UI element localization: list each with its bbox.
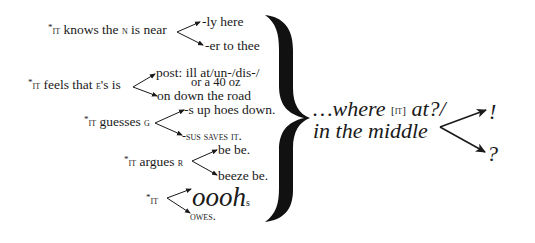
branch-5-lower: owes.: [190, 209, 216, 223]
right-brace-icon: [265, 15, 310, 222]
stem-tail: 's is: [101, 77, 121, 92]
conclusion-question: ?: [487, 143, 498, 165]
stem-text: knows the: [60, 22, 122, 37]
bracketed-it: [it]: [391, 104, 406, 116]
fork-arrows-conclusion: [440, 110, 486, 152]
conclusion-exclamation: !: [489, 101, 496, 123]
branch-1-lower: -er to thee: [205, 39, 260, 53]
stem-1: *it knows the n is near: [48, 23, 167, 37]
oooh-text: oooh: [192, 182, 246, 212]
stem-5: *it: [146, 193, 158, 207]
branch-1-upper: -ly here: [202, 15, 244, 29]
branch-5-upper: ooohs: [192, 184, 250, 211]
fork-arrows-2: [133, 74, 157, 96]
stem-4: *it argues r: [124, 155, 183, 169]
stem-2: *it feels that e's is: [28, 78, 121, 92]
stem-text: feels that: [40, 77, 96, 92]
it-word: it: [231, 129, 239, 143]
it-word: it: [53, 23, 61, 37]
it-word: it: [151, 193, 159, 207]
it-word: it: [129, 155, 137, 169]
branch-4-lower: beeze be.: [218, 169, 268, 183]
branch-2-upper-line2: or a 40 oz: [191, 76, 241, 89]
branch-4-upper: be be.: [218, 143, 250, 157]
fork-arrows-4: [192, 150, 217, 175]
stem-text: argues: [136, 154, 178, 169]
subscript-s: s: [246, 197, 250, 208]
it-word: it: [89, 115, 97, 129]
stem-text: guesses: [96, 114, 144, 129]
fork-arrows-3: [155, 110, 184, 135]
conclusion-line-1: …where [it] at?/: [313, 98, 446, 120]
lower-text: -sus saves: [182, 129, 231, 143]
stem-3: *it guesses g: [84, 115, 150, 129]
letter: g: [144, 115, 150, 129]
branch-3-upper: -s up hoes down.: [184, 103, 276, 117]
stem-tail: is near: [128, 22, 167, 37]
letter: r: [178, 155, 183, 169]
branch-2-lower: on down the road: [157, 89, 251, 103]
it-word: it: [33, 78, 41, 92]
owes-text: owes.: [190, 209, 216, 223]
fork-arrows-1: [177, 22, 203, 45]
fork-arrows-5: [167, 189, 191, 213]
period: .: [239, 128, 242, 143]
branch-3-lower: -sus saves it.: [182, 129, 242, 143]
conclusion-line-2: in the middle: [313, 120, 428, 142]
